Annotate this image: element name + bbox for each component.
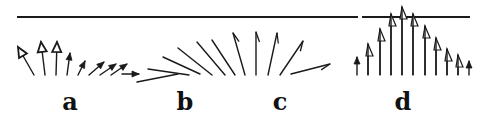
vector-arrow bbox=[400, 7, 407, 75]
panel-label-d: d bbox=[395, 90, 412, 114]
vector-arrow bbox=[291, 64, 330, 74]
panel-label-c: c bbox=[273, 90, 288, 114]
vector-arrow bbox=[280, 41, 303, 75]
vector-arrow bbox=[78, 61, 85, 75]
vector-arrow bbox=[256, 32, 260, 75]
vector-arrow bbox=[466, 61, 472, 75]
vector-arrow bbox=[66, 53, 72, 75]
field-line bbox=[197, 42, 225, 75]
vector-arrow bbox=[52, 42, 61, 75]
panel-label-a: a bbox=[62, 90, 78, 114]
vector-arrow bbox=[434, 38, 441, 75]
vector-arrow bbox=[18, 47, 34, 75]
field-line bbox=[212, 40, 235, 75]
vector-arrow bbox=[445, 49, 452, 75]
field-line bbox=[137, 74, 178, 82]
panel-a-arrows bbox=[18, 42, 139, 77]
vector-arrow bbox=[366, 44, 373, 75]
vector-arrow bbox=[122, 71, 139, 77]
field-line bbox=[148, 69, 189, 75]
panel-c-arrows bbox=[233, 32, 330, 75]
vector-arrow bbox=[389, 14, 396, 75]
vector-arrow bbox=[38, 42, 47, 75]
panel-label-b: b bbox=[177, 90, 194, 114]
vector-arrow bbox=[411, 14, 418, 75]
vector-arrow bbox=[456, 55, 463, 75]
vector-arrow bbox=[268, 33, 278, 75]
vector-arrow bbox=[378, 29, 385, 75]
vector-arrow bbox=[233, 33, 245, 75]
vector-arrow bbox=[354, 57, 360, 75]
vector-arrow bbox=[423, 26, 430, 75]
panel-b-lines bbox=[137, 40, 235, 82]
